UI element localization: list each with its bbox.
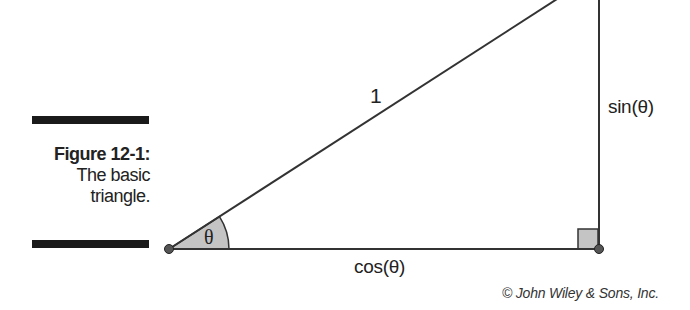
- hypotenuse: [169, 0, 599, 249]
- sine-label: sin(θ): [608, 96, 654, 118]
- triangle-diagram: [0, 0, 690, 310]
- theta-angle-label: θ: [204, 226, 213, 249]
- copyright-credit: © John Wiley & Sons, Inc.: [502, 285, 659, 301]
- cosine-label: cos(θ): [354, 256, 405, 278]
- vertex-origin: [165, 245, 174, 254]
- vertex-right-angle: [595, 245, 604, 254]
- hypotenuse-label: 1: [370, 84, 381, 108]
